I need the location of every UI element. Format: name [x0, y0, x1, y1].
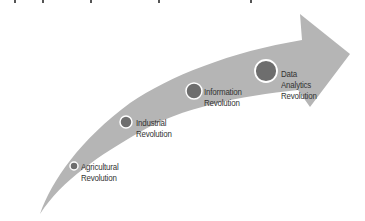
label-line: Data: [281, 69, 317, 80]
label-line: Analytics: [281, 80, 317, 91]
label-line: Revolution: [204, 98, 242, 109]
node-information: [186, 83, 202, 99]
label-line: Agricultural: [81, 162, 119, 173]
label-line: Revolution: [81, 173, 119, 184]
label-agricultural-revolution: Agricultural Revolution: [81, 162, 119, 184]
curved-arrow: [0, 0, 365, 221]
node-data-analytics: [255, 60, 277, 82]
arrow-shape: [40, 14, 350, 214]
revolutions-diagram: Agricultural Revolution Industrial Revol…: [0, 0, 365, 221]
label-line: Revolution: [136, 129, 172, 140]
label-line: Information: [204, 87, 242, 98]
label-line: Revolution: [281, 91, 317, 102]
label-industrial-revolution: Industrial Revolution: [136, 118, 172, 140]
label-information-revolution: Information Revolution: [204, 87, 242, 109]
label-line: Industrial: [136, 118, 172, 129]
label-data-analytics-revolution: Data Analytics Revolution: [281, 69, 317, 102]
node-industrial: [120, 116, 132, 128]
node-agricultural: [70, 162, 78, 170]
